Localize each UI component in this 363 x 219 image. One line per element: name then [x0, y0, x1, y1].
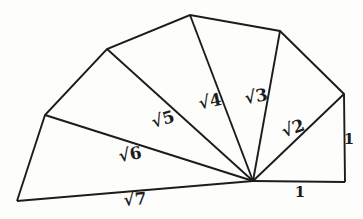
hypotenuse-sqrt5-label: √5 — [149, 106, 177, 132]
hypotenuse-sqrt2-label: √2 — [279, 115, 307, 142]
unit-side-right-label: 1 — [344, 130, 354, 148]
hypotenuse-sqrt6-label: √6 — [117, 142, 143, 166]
unit-side-bottom-label: 1 — [295, 183, 305, 201]
hypotenuse-sqrt6 — [45, 115, 253, 181]
hypotenuse-sqrt7-label: √7 — [123, 188, 148, 210]
outer-boundary — [17, 15, 345, 201]
hypotenuse-sqrt3-label: √3 — [243, 84, 269, 108]
hypotenuse-sqrt4-label: √4 — [197, 89, 224, 113]
unit-base-side — [253, 181, 345, 182]
diagram-labels: √2√3√4√5√6√711 — [117, 84, 354, 210]
diagram-lines — [17, 15, 345, 201]
theodorus-spiral-figure: √2√3√4√5√6√711 — [0, 0, 363, 219]
theodorus-spiral-diagram: √2√3√4√5√6√711 — [0, 0, 363, 219]
